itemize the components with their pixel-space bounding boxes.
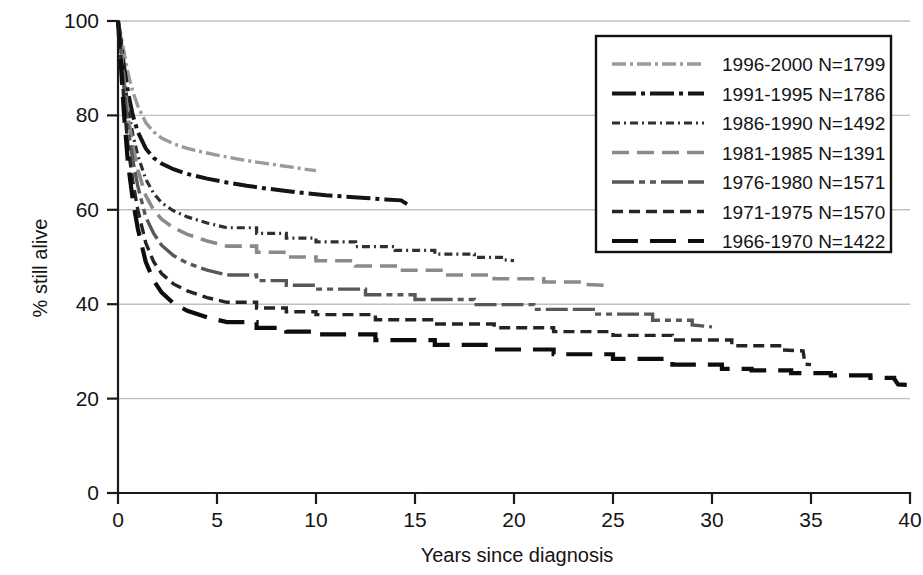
x-tick-label: 5 — [211, 508, 223, 531]
legend-label-1981-1985: 1981-1985 N=1391 — [722, 143, 885, 164]
x-tick-label: 0 — [112, 508, 124, 531]
y-tick-label: 20 — [76, 387, 99, 410]
x-axis-title: Years since diagnosis — [421, 544, 614, 566]
x-tick-label: 20 — [502, 508, 525, 531]
y-tick-label: 0 — [87, 481, 99, 504]
y-tick-label: 40 — [76, 292, 99, 315]
legend: 1996-2000 N=17991991-1995 N=17861986-199… — [596, 36, 891, 252]
x-tick-label: 30 — [700, 508, 723, 531]
legend-label-1971-1975: 1971-1975 N=1570 — [722, 202, 885, 223]
legend-label-1966-1970: 1966-1970 N=1422 — [722, 231, 885, 252]
chart-canvas: 020406080100 0510152025303540 % still al… — [0, 0, 923, 575]
legend-label-1986-1990: 1986-1990 N=1492 — [722, 113, 885, 134]
survival-chart: 020406080100 0510152025303540 % still al… — [0, 0, 923, 575]
legend-label-1991-1995: 1991-1995 N=1786 — [722, 84, 885, 105]
x-tick-label: 25 — [601, 508, 624, 531]
y-tick-label: 100 — [64, 9, 99, 32]
legend-label-1996-2000: 1996-2000 N=1799 — [722, 54, 885, 75]
y-tick-label: 60 — [76, 198, 99, 221]
x-tick-label: 10 — [304, 508, 327, 531]
x-tick-label: 40 — [898, 508, 921, 531]
legend-label-1976-1980: 1976-1980 N=1571 — [722, 172, 885, 193]
x-tick-label: 35 — [799, 508, 822, 531]
x-tick-label: 15 — [403, 508, 426, 531]
y-axis-title: % still alive — [29, 219, 51, 318]
y-tick-label: 80 — [76, 103, 99, 126]
